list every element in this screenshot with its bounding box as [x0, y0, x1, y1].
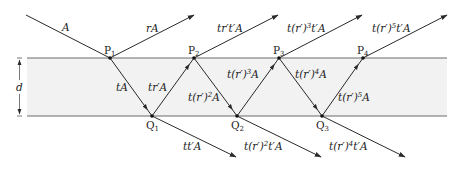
reflected-label-2: tr′t′A	[217, 22, 243, 34]
reflected-label-1: rA	[146, 22, 159, 34]
transmitted-label-3: t(r′)4t′A	[329, 140, 368, 152]
thickness-dimension: d	[16, 58, 23, 116]
film-layer	[27, 58, 447, 116]
thickness-label: d	[16, 81, 23, 93]
inner-up-label-2: t(r′)3A	[227, 68, 259, 80]
inner-down-label-1: tA	[116, 81, 128, 93]
point-label-q3: Q3	[316, 119, 329, 133]
incident-label: A	[61, 21, 70, 33]
point-label-p4: P4	[357, 44, 369, 58]
point-label-p1: P1	[104, 44, 116, 58]
transmitted-label-2: t(r′)2t′A	[244, 140, 283, 152]
inner-down-label-3: t(r′)4A	[295, 68, 327, 80]
reflected-label-4: t(r′)5t′A	[372, 22, 411, 34]
transmitted-label-1: tt′A	[183, 140, 202, 152]
reflected-label-3: t(r′)3t′A	[287, 22, 326, 34]
point-label-q2: Q2	[231, 119, 244, 133]
inner-down-label-2: t(r′)2A	[188, 91, 220, 103]
point-label-p3: P3	[273, 44, 285, 58]
point-label-q1: Q1	[146, 119, 159, 133]
inner-up-label-3: t(r′)5A	[338, 91, 370, 103]
thin-film-reflection-diagram: d A P1 P2 P3 P4 Q1 Q2 Q3 rA tr′t′A t(r′)…	[0, 0, 459, 173]
point-label-p2: P2	[188, 44, 200, 58]
inner-up-label-1: tr′A	[148, 81, 168, 93]
